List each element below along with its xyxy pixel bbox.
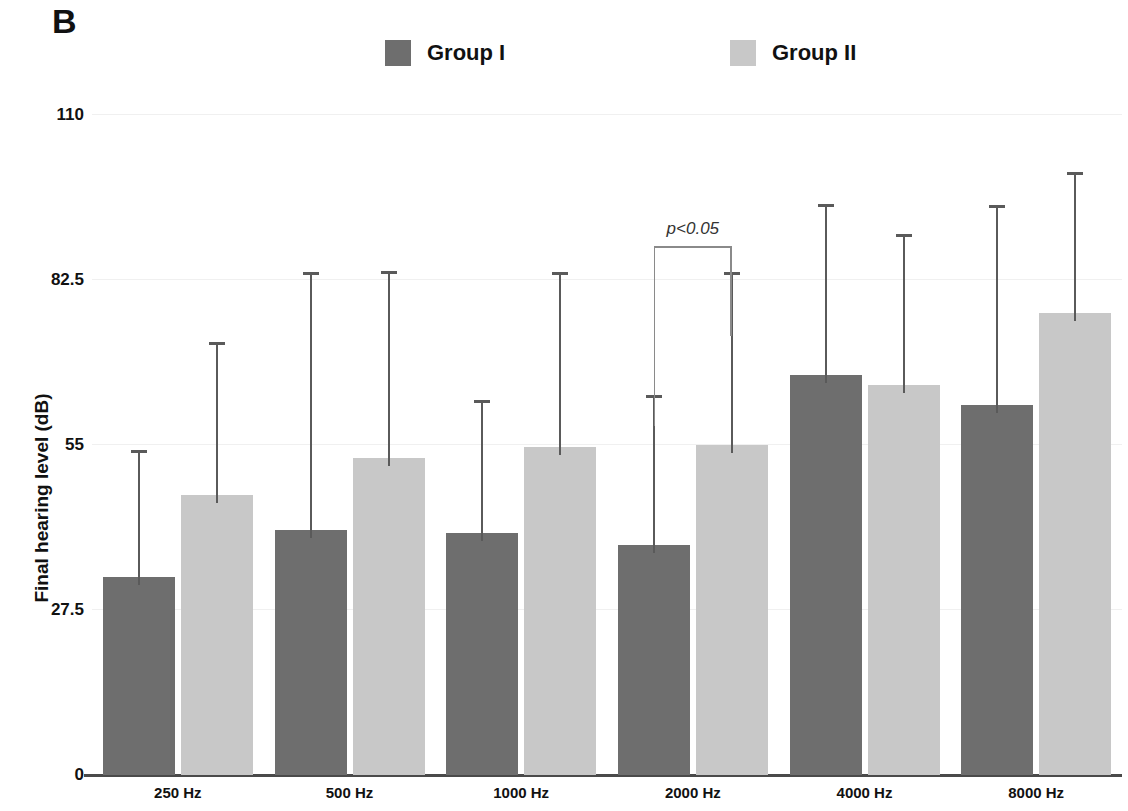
legend: Group I Group II [385, 38, 905, 72]
gridline [92, 279, 1122, 280]
error-bar-cap [552, 272, 568, 275]
bar-fill [1039, 313, 1111, 775]
error-bar [903, 237, 905, 393]
y-axis-tick-label: 55 [8, 435, 84, 455]
bar-group-ii [353, 458, 425, 775]
bar-group-i [446, 533, 518, 775]
bar-fill [696, 445, 768, 775]
bracket-top [654, 246, 732, 248]
bar-fill [181, 495, 253, 775]
bar-fill [961, 405, 1033, 775]
legend-entry-group-i: Group I [385, 38, 505, 68]
error-bar [559, 275, 561, 455]
error-bar-cap [474, 400, 490, 403]
figure-panel-b: B Group I Group II Final hearing level (… [0, 0, 1128, 811]
gridline [92, 114, 1122, 115]
error-bar [138, 453, 140, 585]
bar-fill [275, 530, 347, 775]
error-bar [310, 275, 312, 538]
x-axis-tick-label: 2000 Hz [665, 784, 721, 801]
error-bar-cap [818, 204, 834, 207]
bar-fill [790, 375, 862, 775]
error-bar-cap [1067, 172, 1083, 175]
error-bar-cap [381, 271, 397, 274]
error-bar-cap [131, 450, 147, 453]
x-axis-tick-label: 4000 Hz [837, 784, 893, 801]
error-bar [996, 208, 998, 413]
legend-entry-group-ii: Group II [730, 38, 856, 68]
bar-fill [103, 577, 175, 775]
error-bar [481, 403, 483, 541]
x-axis-tick-label: 500 Hz [326, 784, 374, 801]
legend-label-group-ii: Group II [772, 40, 856, 66]
bar-group-ii [524, 447, 596, 775]
bracket-left-arm [654, 246, 656, 426]
bar-fill [618, 545, 690, 775]
error-bar-cap [896, 234, 912, 237]
bar-group-ii [1039, 313, 1111, 775]
bracket-right-arm [730, 246, 732, 336]
error-bar-cap [209, 342, 225, 345]
x-axis-tick-label: 1000 Hz [493, 784, 549, 801]
significance-label: p<0.05 [667, 219, 719, 239]
error-bar [216, 345, 218, 503]
y-axis-tick-label: 82.5 [8, 270, 84, 290]
x-axis-tick-label: 8000 Hz [1008, 784, 1064, 801]
plot-area [92, 115, 1122, 775]
bar-group-i [275, 530, 347, 775]
legend-label-group-i: Group I [427, 40, 505, 66]
bar-fill [868, 385, 940, 775]
y-axis-tick-label: 110 [8, 105, 84, 125]
bar-group-ii [696, 445, 768, 775]
y-axis-tick-label: 0 [8, 765, 84, 785]
error-bar [825, 207, 827, 383]
bar-group-i [103, 577, 175, 775]
bar-fill [353, 458, 425, 775]
y-axis-tick-labels: 027.55582.5110 [8, 0, 84, 811]
bar-group-i [618, 545, 690, 775]
error-bar [1074, 175, 1076, 321]
bar-group-ii [868, 385, 940, 775]
legend-swatch-group-ii [730, 40, 756, 66]
error-bar [388, 274, 390, 466]
error-bar-cap [724, 272, 740, 275]
bar-group-ii [181, 495, 253, 775]
bar-group-i [790, 375, 862, 775]
bar-fill [446, 533, 518, 775]
y-axis-tick-label: 27.5 [8, 600, 84, 620]
error-bar-cap [303, 272, 319, 275]
bar-fill [524, 447, 596, 775]
x-axis-tick-label: 250 Hz [154, 784, 202, 801]
error-bar-cap [989, 205, 1005, 208]
bar-group-i [961, 405, 1033, 775]
significance-bracket [654, 246, 732, 247]
legend-swatch-group-i [385, 40, 411, 66]
